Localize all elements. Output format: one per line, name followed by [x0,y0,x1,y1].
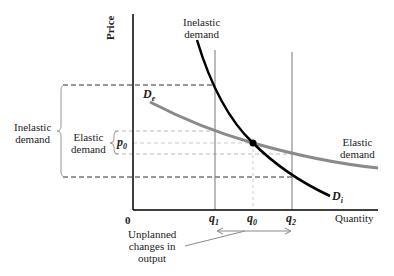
inelastic-brace-line2: demand [14,133,51,145]
annotation-line3: output [128,252,176,264]
equilibrium-point [250,140,257,147]
inelastic-label-line2: demand [183,28,220,40]
elastic-brace-line2: demand [71,143,106,155]
de-label: De [143,88,155,105]
elastic-demand-right-label: Elastic demand [340,136,375,160]
de-letter: D [143,87,152,101]
unplanned-changes-annotation: Unplanned changes in output [128,228,176,264]
elastic-brace-label: Elastic demand [71,131,106,155]
di-subscript: i [341,196,343,205]
annotation-line2: changes in [128,240,176,252]
inelastic-demand-curve [197,40,330,196]
de-subscript: e [152,94,156,103]
q1-subscript: 1 [215,218,219,227]
inelastic-brace-label: Inelastic demand [14,121,51,145]
elastic-label-line2: demand [340,148,375,160]
inelastic-label-line1: Inelastic [183,16,220,28]
p0-subscript: 0 [123,142,127,151]
inelastic-demand-top-label: Inelastic demand [183,16,220,40]
inelastic-brace-line1: Inelastic [14,121,51,133]
q0-subscript: 0 [253,218,257,227]
inelastic-brace [57,85,66,177]
elastic-brace-line1: Elastic [71,131,106,143]
q0-label: q0 [247,212,257,229]
y-axis-label: Price [104,16,116,40]
q2-label: q2 [286,212,296,229]
demand-diagram [0,0,394,276]
x-axis-label: Quantity [335,212,374,224]
q1-label: q1 [209,212,219,229]
annotation-leader-line [185,231,245,246]
origin-label: 0 [125,214,131,226]
elastic-label-line1: Elastic [340,136,375,148]
p0-label: p0 [117,136,127,153]
q2-subscript: 2 [292,218,296,227]
annotation-line1: Unplanned [128,228,176,240]
di-label: Di [332,190,343,207]
di-letter: D [332,189,341,203]
